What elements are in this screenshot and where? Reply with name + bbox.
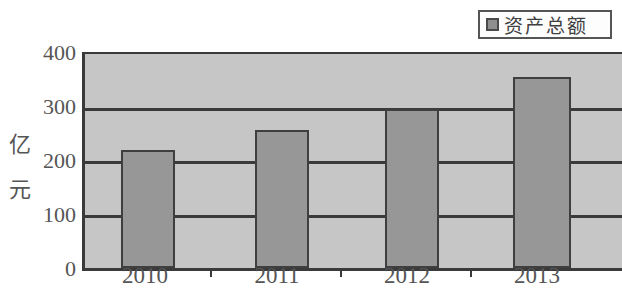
y-tick-label: 100 [24, 204, 76, 226]
legend-label: 资产总额 [504, 11, 588, 38]
bar-2010 [121, 150, 175, 268]
x-tick-label-2012: 2012 [362, 262, 452, 289]
bar-2012 [385, 109, 439, 268]
x-tick-label-2013: 2013 [492, 262, 582, 289]
x-tick-label-2011: 2011 [232, 262, 322, 289]
y-tick-label: 200 [24, 150, 76, 172]
bar-2013 [513, 77, 571, 268]
chart-legend: 资产总额 [478, 10, 612, 39]
y-tick-label: 300 [24, 96, 76, 118]
x-tick-label-2010: 2010 [100, 262, 190, 289]
y-axis-tick-labels: 400 300 200 100 0 [20, 0, 76, 289]
x-axis-tick [340, 271, 342, 277]
y-tick-label: 0 [24, 258, 76, 280]
plot-area [82, 52, 622, 271]
y-tick-label: 400 [24, 42, 76, 64]
bar-2011 [255, 130, 309, 268]
x-axis-tick [470, 271, 472, 277]
legend-swatch-icon [486, 18, 499, 31]
x-axis-tick [210, 271, 212, 277]
